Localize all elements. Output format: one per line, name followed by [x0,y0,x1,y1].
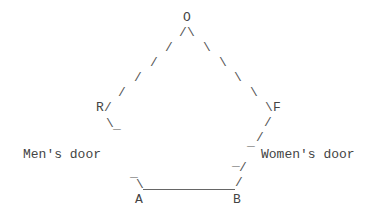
node-r-label: R [96,101,104,114]
edge-o-f-segment: \ [234,71,242,84]
edge-f-b-segment: / [239,161,247,174]
edge-r-segment: / [104,101,112,114]
edge-o-r-segment: / [165,41,173,54]
node-b-label: B [233,193,241,206]
edge-r-a-segment: _ [113,118,121,131]
edge-o-r-segment: / [179,26,187,39]
edge-o-f-segment: \ [250,86,258,99]
edge-f-b-segment: _ [247,135,255,148]
edge-f-b-segment: / [264,116,272,129]
edge-o-r-segment: / [150,56,158,69]
edge-o-f-segment: \ [219,56,227,69]
edge-f-b-segment: / [235,176,243,189]
edge-o-f-segment: \ [203,41,211,54]
mens-door-label: Men's door [23,148,101,161]
node-o-label: O [183,11,191,24]
edge-o-r-segment: / [134,71,142,84]
edge-f-segment: \ [265,101,273,114]
edge-o-r-segment: / [118,86,126,99]
edge-a-b-line [143,189,235,190]
edge-o-f-segment: \ [187,26,195,39]
womens-door-label: Women's door [261,148,355,161]
ascii-diagram: O / \ / / / / \ \ \ \ R / \ _ \ F / / _ … [0,0,378,220]
node-a-label: A [135,193,143,206]
edge-f-b-segment: / [256,131,264,144]
node-f-label: F [273,101,281,114]
